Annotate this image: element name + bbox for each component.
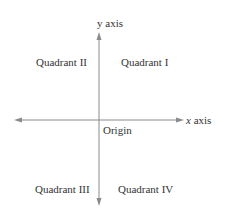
- origin-label: Origin: [103, 124, 132, 136]
- x-axis-variable: x: [186, 114, 191, 126]
- x-axis-label: x axis: [186, 114, 211, 126]
- quadrant-4-label: Quadrant IV: [118, 183, 173, 195]
- quadrant-2-label: Quadrant II: [36, 56, 87, 68]
- x-axis-left-arrow-icon: [14, 118, 22, 123]
- y-axis-down-arrow-icon: [97, 198, 102, 206]
- quadrant-3-label: Quadrant III: [35, 183, 90, 195]
- quadrant-1-label: Quadrant I: [121, 56, 168, 68]
- x-axis-word: axis: [194, 114, 212, 126]
- x-axis-right-arrow-icon: [176, 118, 184, 123]
- y-axis-label: y axis: [97, 17, 123, 29]
- y-axis-up-arrow-icon: [97, 32, 102, 40]
